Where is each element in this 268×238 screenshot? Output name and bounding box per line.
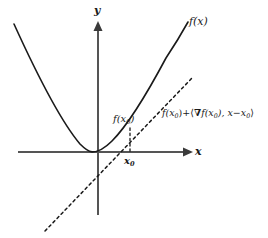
- formula-part-3: f(x: [201, 107, 214, 118]
- fx0-base: f(x: [113, 113, 126, 124]
- y-axis-label: y: [94, 5, 100, 16]
- x0-tick-label: x0: [124, 156, 135, 166]
- y-axis: [94, 21, 103, 215]
- function-value-label: f(x0): [113, 114, 134, 124]
- tangent-formula-label: f(x0)+⟨∇f(x0), x−x0⟩: [162, 108, 254, 118]
- function-curve: [14, 22, 188, 152]
- figure-canvas: y x x0 f(x) f(x0) f(x0)+⟨∇f(x0), x−x0⟩: [0, 0, 268, 238]
- formula-sub-1: 0: [175, 112, 179, 119]
- y-axis-arrowhead-icon: [94, 21, 103, 31]
- x-axis-label: x: [195, 146, 202, 157]
- fx0-tail: ): [130, 113, 134, 124]
- x0-tick-subscript: 0: [130, 160, 135, 168]
- x-axis: [18, 148, 193, 157]
- formula-part-1: f(x: [162, 107, 175, 118]
- formula-sub-2: 0: [214, 112, 218, 119]
- formula-part-4: ), x−x: [218, 107, 246, 118]
- formula-sub-3: 0: [246, 112, 250, 119]
- curve-label: f(x): [189, 16, 208, 27]
- formula-part-2: )+⟨: [179, 107, 194, 118]
- tangent-line: [45, 78, 192, 231]
- x-axis-arrowhead-icon: [183, 148, 193, 157]
- fx0-subscript: 0: [126, 118, 130, 126]
- formula-part-5: ⟩: [250, 107, 254, 118]
